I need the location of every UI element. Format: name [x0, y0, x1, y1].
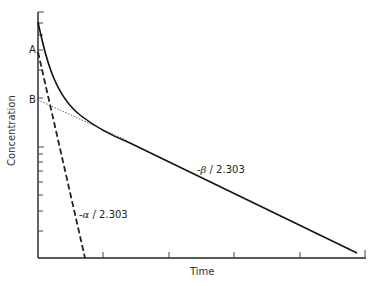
pharmacokinetic-plot: [0, 0, 377, 286]
axes: [38, 12, 366, 258]
y-axis-label: Concentration: [6, 95, 17, 166]
beta-extrapolation-line: [38, 100, 128, 141]
alpha-phase-line: [38, 52, 85, 258]
x-ticks: [103, 250, 365, 258]
alpha-slope-label: -α / 2.303: [79, 210, 128, 220]
intercept-label-b: B: [29, 95, 36, 105]
x-axis-label: Time: [190, 266, 214, 277]
beta-slope-label: -β / 2.303: [197, 165, 245, 175]
intercept-label-a: A: [29, 45, 36, 55]
